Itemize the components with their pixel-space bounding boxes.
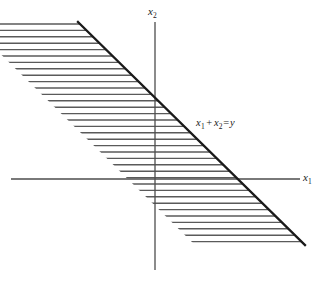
- constraint-equation-label: x1+x2=y: [196, 118, 235, 129]
- x2-axis-label-sub: 2: [153, 11, 157, 20]
- diagram-canvas: [0, 0, 322, 285]
- equation-equals-sign: =: [223, 117, 230, 128]
- math-diagram-figure: x2 x1 x1+x2=y: [0, 0, 322, 285]
- equation-rhs: y: [230, 117, 235, 128]
- x2-axis-label: x2: [148, 6, 157, 17]
- hatch-fill-group: [0, 24, 322, 242]
- equation-term2-sub: 2: [219, 122, 223, 131]
- x1-axis-label: x1: [303, 172, 312, 183]
- x1-axis-label-sub: 1: [308, 177, 312, 186]
- equation-plus-operator: +: [205, 117, 214, 128]
- equation-term1-sub: 1: [201, 122, 205, 131]
